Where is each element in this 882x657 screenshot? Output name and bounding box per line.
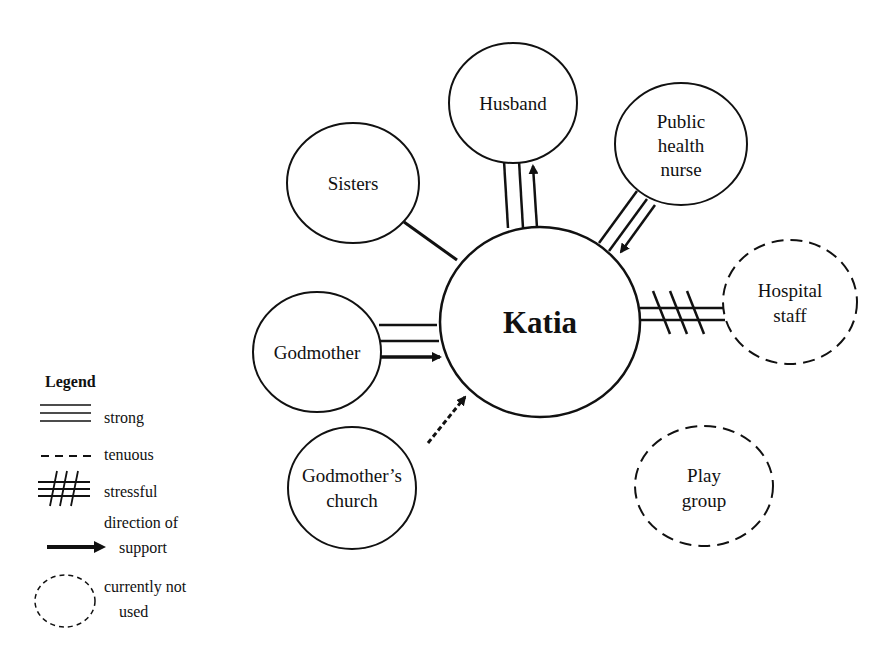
connection-godmother — [379, 325, 440, 357]
node-label-play-line1: Play — [687, 465, 721, 486]
legend-label-arrow-line1: direction of — [104, 514, 179, 531]
node-label-husband: Husband — [479, 93, 547, 114]
node-label-sisters: Sisters — [328, 173, 379, 194]
legend-label-strong: strong — [104, 409, 144, 427]
connection-public-health-nurse — [599, 191, 655, 252]
ecomap-diagram: Katia Husband Sisters Public health nurs… — [0, 0, 882, 657]
node-public-health-nurse: Public health nurse — [615, 83, 747, 205]
legend-strong-icon — [40, 405, 91, 421]
legend-label-arrow-line2: support — [119, 539, 168, 557]
node-hospital-staff: Hospital staff — [723, 240, 857, 364]
node-godmothers-church: Godmother’s church — [288, 427, 416, 549]
legend-label-tenuous: tenuous — [104, 446, 154, 463]
legend: Legend strong tenuous stressful directio… — [35, 373, 187, 627]
node-label-nurse-line3: nurse — [660, 159, 701, 180]
node-label-godmother: Godmother — [274, 342, 361, 363]
node-label-church-line1: Godmother’s — [302, 465, 402, 486]
connection-hospital-staff — [640, 291, 725, 334]
node-husband: Husband — [449, 43, 577, 163]
legend-dashed-circle-icon — [35, 575, 95, 627]
node-godmother: Godmother — [253, 292, 381, 412]
node-label-nurse-line2: health — [658, 135, 705, 156]
node-label-church-line2: church — [326, 490, 378, 511]
legend-arrow-icon — [47, 541, 106, 553]
center-label: Katia — [503, 305, 578, 340]
legend-label-unused-line2: used — [119, 603, 148, 620]
node-play-group: Play group — [635, 426, 773, 546]
connection-sisters — [404, 222, 457, 260]
connection-godmothers-church — [428, 397, 465, 443]
node-label-play-line2: group — [682, 490, 726, 511]
node-label-nurse-line1: Public — [657, 111, 706, 132]
legend-label-unused-line1: currently not — [104, 578, 187, 596]
center-node-katia: Katia — [440, 227, 640, 417]
legend-stressful-icon — [38, 471, 90, 506]
node-label-hospital-line1: Hospital — [758, 280, 822, 301]
node-sisters: Sisters — [287, 123, 419, 243]
legend-label-stressful: stressful — [104, 483, 158, 500]
node-label-hospital-line2: staff — [773, 305, 807, 326]
connection-husband — [504, 161, 537, 228]
legend-title: Legend — [45, 373, 96, 391]
